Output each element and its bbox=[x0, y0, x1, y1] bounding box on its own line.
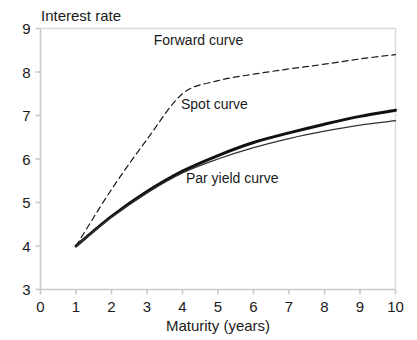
annotation-spot-curve: Spot curve bbox=[181, 96, 248, 112]
chart-canvas: Interest rate 3456789 012345678910 Forwa… bbox=[0, 0, 417, 340]
x-tick-label: 4 bbox=[178, 298, 186, 315]
x-tick-label: 2 bbox=[107, 298, 115, 315]
x-tick-label: 7 bbox=[285, 298, 293, 315]
x-tick-label: 9 bbox=[356, 298, 364, 315]
x-tick-label: 6 bbox=[249, 298, 257, 315]
y-tick-label: 4 bbox=[22, 238, 30, 255]
x-axis-title: Maturity (years) bbox=[166, 317, 270, 334]
annotation-par-yield-curve: Par yield curve bbox=[186, 170, 279, 186]
y-tick-label: 8 bbox=[22, 64, 30, 81]
x-tick-label: 0 bbox=[36, 298, 44, 315]
x-tick-label: 1 bbox=[72, 298, 80, 315]
y-tick-label: 7 bbox=[22, 107, 30, 124]
x-tick-label: 8 bbox=[320, 298, 328, 315]
y-tick-label: 5 bbox=[22, 194, 30, 211]
annotation-forward-curve: Forward curve bbox=[154, 32, 244, 48]
interest-rate-chart: Interest rate 3456789 012345678910 Forwa… bbox=[0, 0, 417, 340]
x-tick-label: 10 bbox=[387, 298, 404, 315]
x-tick-label: 3 bbox=[143, 298, 151, 315]
y-tick-label: 3 bbox=[22, 281, 30, 298]
x-tick-label: 5 bbox=[214, 298, 222, 315]
y-axis-title: Interest rate bbox=[41, 7, 121, 24]
y-tick-label: 9 bbox=[22, 20, 30, 37]
y-tick-label: 6 bbox=[22, 151, 30, 168]
